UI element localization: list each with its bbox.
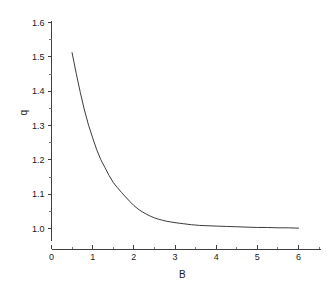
y-tick-label: 1.3 bbox=[32, 121, 45, 131]
x-tick-label: 0 bbox=[49, 252, 54, 262]
y-tick-label: 1.1 bbox=[32, 189, 45, 199]
x-tick-label: 6 bbox=[296, 252, 301, 262]
x-tick-label: 2 bbox=[131, 252, 136, 262]
y-tick-label: 1.5 bbox=[32, 52, 45, 62]
x-axis-title: B bbox=[179, 269, 186, 280]
x-tick-label: 4 bbox=[214, 252, 219, 262]
x-axis: 0123456 bbox=[49, 245, 321, 262]
y-tick-label: 1.4 bbox=[32, 86, 45, 96]
x-tick-label: 1 bbox=[90, 252, 95, 262]
y-tick-label: 1.0 bbox=[32, 224, 45, 234]
figure-canvas: 1.01.11.21.31.41.51.6 0123456 Bq bbox=[0, 0, 334, 289]
y-tick-label: 1.6 bbox=[32, 18, 45, 28]
chart-plot: 1.01.11.21.31.41.51.6 0123456 Bq bbox=[0, 0, 334, 289]
x-tick-label: 3 bbox=[172, 252, 177, 262]
y-axis: 1.01.11.21.31.41.51.6 bbox=[32, 18, 52, 241]
data-series-curve bbox=[72, 53, 298, 228]
y-axis-title: q bbox=[18, 110, 29, 116]
series-line bbox=[72, 53, 298, 228]
y-tick-label: 1.2 bbox=[32, 155, 45, 165]
x-tick-label: 5 bbox=[255, 252, 260, 262]
